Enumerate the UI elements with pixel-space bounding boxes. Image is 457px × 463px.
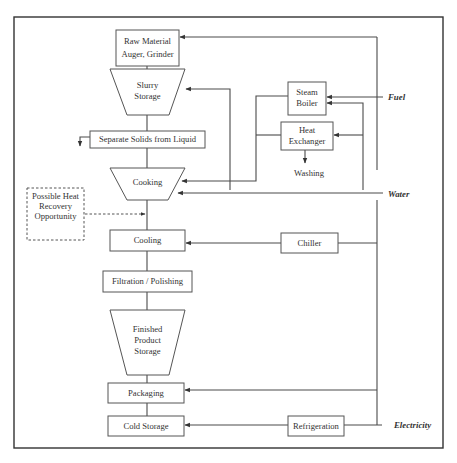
svg-text:Boiler: Boiler [296,98,318,108]
filtration-box: Filtration / Polishing [103,271,192,292]
cooling-box: Cooling [110,230,185,251]
fuel-lines [327,97,383,190]
packaging-box: Packaging [108,383,184,403]
svg-text:Product: Product [134,335,161,345]
svg-text:Storage: Storage [134,346,160,356]
svg-text:Auger, Grinder: Auger, Grinder [121,49,173,59]
heat-exchanger-box: Heat Exchanger [281,122,333,150]
svg-text:Separate Solids from Liquid: Separate Solids from Liquid [99,134,197,144]
svg-text:Slurry: Slurry [137,80,159,90]
diagram-frame [14,17,443,448]
svg-text:Chiller: Chiller [298,238,322,248]
separate-solids-box: Separate Solids from Liquid [90,131,205,148]
svg-text:Possible Heat: Possible Heat [32,191,80,201]
svg-text:Packaging: Packaging [128,388,165,398]
svg-text:Cooking: Cooking [133,177,163,187]
cooking-vessel: Cooking [110,168,185,200]
slurry-storage-tank: Slurry Storage [110,69,185,115]
svg-text:Filtration / Polishing: Filtration / Polishing [112,276,184,286]
svg-text:Steam: Steam [296,87,318,97]
solids-discharge-arrow [80,137,90,146]
svg-text:Raw Material: Raw Material [124,36,172,46]
svg-text:Storage: Storage [134,91,160,101]
svg-text:Recovery: Recovery [39,201,73,211]
heat-recovery-box: Possible Heat Recovery Opportunity [27,188,84,240]
cold-storage-box: Cold Storage [108,416,184,436]
svg-text:Cooling: Cooling [134,235,162,245]
water-label: Water [388,189,410,199]
electricity-label: Electricity [393,420,431,430]
washing-label: Washing [294,168,325,178]
fuel-label: Fuel [387,92,406,102]
finished-product-storage-tank: Finished Product Storage [110,310,185,375]
chiller-box: Chiller [281,233,338,253]
svg-text:Heat: Heat [299,125,316,135]
refrigeration-box: Refrigeration [288,416,344,436]
svg-text:Opportunity: Opportunity [34,211,77,221]
steam-boiler-box: Steam Boiler [288,82,326,115]
electricity-bus [180,37,382,425]
svg-text:Exchanger: Exchanger [289,136,326,146]
svg-text:Finished: Finished [133,324,163,334]
svg-text:Cold Storage: Cold Storage [123,421,168,431]
svg-text:Refrigeration: Refrigeration [293,421,340,431]
raw-material-box: Raw Material Auger, Grinder [116,30,179,66]
process-flow-diagram: Raw Material Auger, Grinder Slurry Stora… [0,0,457,463]
